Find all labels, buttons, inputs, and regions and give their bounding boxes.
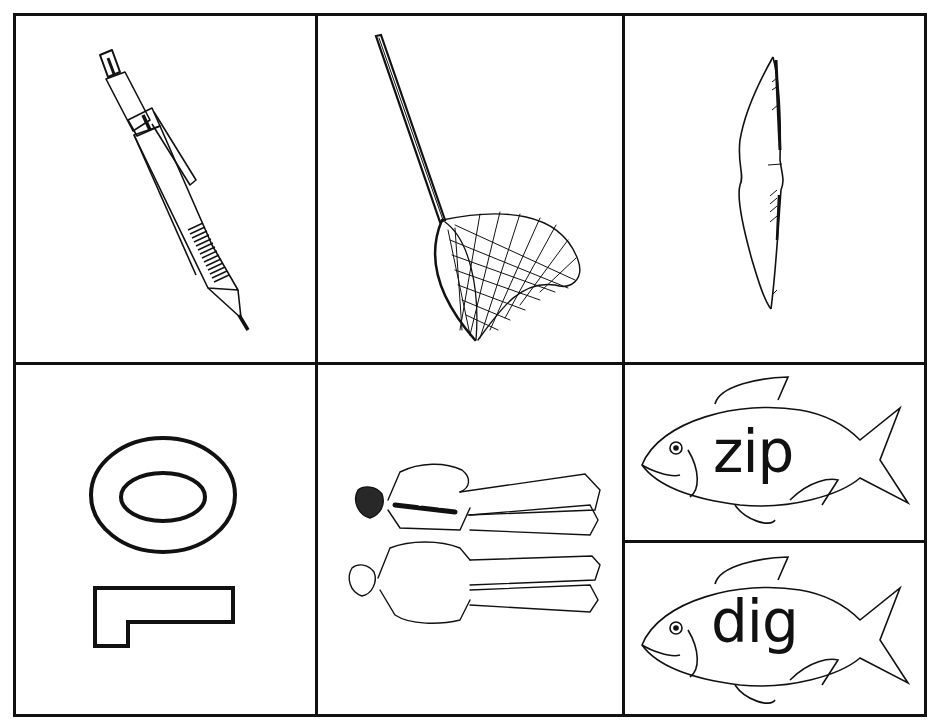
card-pillow[interactable]: [625, 16, 927, 362]
card-fish-zip[interactable]: zip: [625, 365, 927, 540]
men-icon: [318, 365, 622, 716]
card-ten[interactable]: [16, 365, 315, 716]
card-fish-dig[interactable]: dig: [625, 543, 927, 716]
card-men[interactable]: [318, 365, 622, 716]
card-net[interactable]: [318, 16, 622, 362]
card-pen[interactable]: [16, 16, 315, 362]
pillow-icon: [625, 16, 927, 362]
net-icon: [318, 16, 622, 362]
fish-word-zip: zip: [713, 423, 793, 481]
fish-word-dig: dig: [711, 593, 798, 651]
number-ten-icon: [16, 365, 315, 716]
pen-icon: [16, 16, 315, 362]
